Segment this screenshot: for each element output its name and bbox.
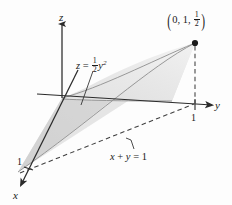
plane-equation-label: x + y = 1 [110, 152, 147, 163]
surface-eq-frac-denominator: 2 [92, 66, 98, 74]
point-frac-denominator: 2 [194, 20, 200, 28]
point-close-paren: ) [201, 12, 205, 30]
plane-eq-value: 1 [142, 151, 147, 162]
surface-eq-fraction: 12 [92, 57, 98, 74]
x-axis-tick-label-1: 1 [17, 157, 22, 167]
point-open-paren: ( [167, 12, 171, 30]
surface-eq-exponent: 2 [103, 59, 107, 67]
point-coordinates-label: (0, 1, 12) [166, 11, 206, 30]
plane-eq-equals: = [133, 151, 139, 162]
point-coord-y: 1, [183, 14, 191, 25]
y-axis-tick-label-1: 1 [191, 113, 196, 123]
three-d-surface-figure [0, 0, 232, 205]
plane-eq-y: y [126, 151, 131, 162]
z-axis-label: z [59, 12, 63, 23]
figure-container: z y x 1 1 z = 12y2 (0, 1, 12) x + y = 1 [0, 0, 232, 205]
plane-eq-plus: + [117, 151, 123, 162]
plane-eq-x: x [110, 151, 115, 162]
surface-eq-equals: = [83, 60, 89, 71]
y-axis-label: y [215, 100, 220, 111]
marked-point-0-1-half [192, 40, 198, 46]
surface-equation-label: z = 12y2 [76, 57, 106, 74]
point-coord-x: 0, [172, 14, 180, 25]
x-axis-label: x [13, 190, 18, 201]
point-coord-z-fraction: 12 [194, 11, 200, 28]
leader-plane-label [126, 138, 134, 149]
